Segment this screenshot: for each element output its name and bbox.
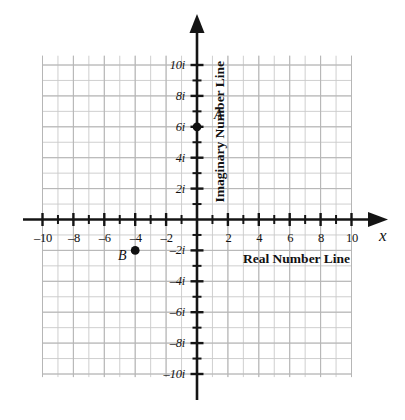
y-tick-label-6: 6i bbox=[176, 121, 185, 134]
y-tick-label-8: 8i bbox=[176, 90, 185, 103]
point-b-marker bbox=[131, 246, 140, 255]
y-tick-label--10: –10i bbox=[164, 368, 185, 381]
y-tick-label-4: 4i bbox=[176, 152, 185, 165]
complex-plane-graph bbox=[0, 0, 405, 420]
point-b-label: B bbox=[118, 249, 127, 263]
axis-lines bbox=[23, 14, 388, 400]
y-tick-label-10: 10i bbox=[170, 59, 185, 72]
x-tick-label-4: 4 bbox=[256, 232, 262, 245]
y-tick-label-2: 2i bbox=[176, 183, 185, 196]
imaginary-axis-title: Imaginary Number Line bbox=[213, 61, 227, 203]
x-tick-label-8: 8 bbox=[318, 232, 324, 245]
x-tick-label-10: 10 bbox=[346, 232, 358, 245]
point-a-label: A bbox=[214, 108, 223, 122]
x-tick-label--10: –10 bbox=[34, 232, 52, 245]
y-tick-label--2: –2i bbox=[170, 244, 185, 257]
x-tick-label-6: 6 bbox=[287, 232, 293, 245]
y-tick-label--6: –6i bbox=[170, 306, 185, 319]
x-axis-variable-label: x bbox=[379, 227, 387, 244]
x-tick-label--8: –8 bbox=[68, 232, 80, 245]
point-a-marker bbox=[193, 122, 202, 131]
real-axis-title: Real Number Line bbox=[243, 252, 350, 266]
y-axis-arrowhead bbox=[190, 14, 205, 33]
x-tick-label--2: –2 bbox=[161, 232, 173, 245]
x-axis-arrowhead bbox=[368, 212, 388, 227]
x-tick-label--4: –4 bbox=[130, 232, 142, 245]
y-tick-label--4: –4i bbox=[170, 275, 185, 288]
x-tick-label--6: –6 bbox=[99, 232, 111, 245]
x-tick-label-2: 2 bbox=[225, 232, 231, 245]
y-tick-label--8: –8i bbox=[170, 337, 185, 350]
